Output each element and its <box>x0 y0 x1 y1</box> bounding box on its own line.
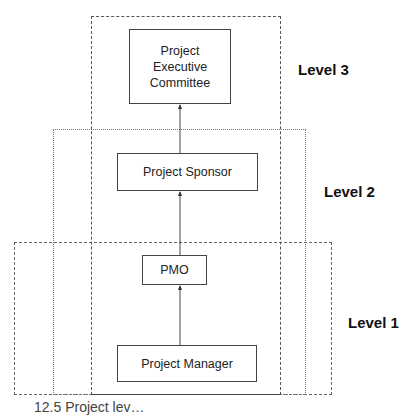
node-project-sponsor: Project Sponsor <box>117 153 258 191</box>
figure-caption-cropped: 12.5 Project lev… <box>34 399 145 415</box>
level-2-label: Level 2 <box>324 183 375 200</box>
node-label: PMO <box>160 262 188 278</box>
node-line: Project <box>161 43 200 59</box>
node-label: Project Sponsor <box>143 164 232 180</box>
node-pmo: PMO <box>142 255 207 285</box>
node-line: Executive <box>153 59 207 75</box>
node-line: Committee <box>150 75 210 91</box>
level-1-label: Level 1 <box>348 314 399 331</box>
node-project-executive-committee: Project Executive Committee <box>129 29 231 104</box>
node-project-manager: Project Manager <box>117 345 257 382</box>
level-3-label: Level 3 <box>298 61 349 78</box>
node-label: Project Manager <box>141 356 233 372</box>
